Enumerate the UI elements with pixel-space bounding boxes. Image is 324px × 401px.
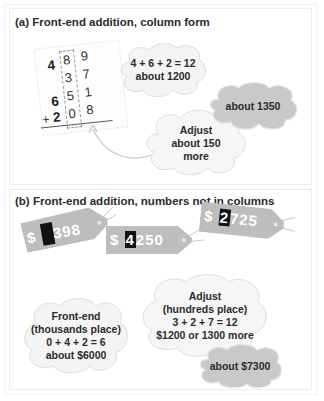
- digit: 9: [80, 48, 89, 64]
- currency-symbol: $: [203, 207, 214, 225]
- digit: 1: [84, 84, 93, 100]
- digit: 3: [64, 70, 73, 86]
- cloud-front-end-thousands: Front-end (thousands place) 0 + 4 + 2 = …: [20, 296, 132, 376]
- price-tag-2: $ 4250: [106, 226, 200, 254]
- price-digits: 250: [136, 231, 164, 248]
- cloud-text-line: about $7300: [210, 360, 271, 373]
- price-digits: 725: [229, 210, 259, 230]
- cloud-front-end-sum: 4 + 6 + 2 = 12 about 1200: [117, 42, 209, 98]
- panel-a-title: (a) Front-end addition, column form: [15, 16, 210, 28]
- digit: 8: [86, 102, 95, 118]
- digit: 2: [52, 109, 61, 125]
- cloud-result: about 1350: [207, 82, 299, 130]
- plus-sign: +: [41, 111, 50, 127]
- cloud-text-line: about $6000: [46, 349, 107, 362]
- digit: 4: [47, 58, 56, 74]
- digit: 7: [82, 66, 91, 82]
- highlighted-digit: 4: [125, 231, 136, 248]
- cloud-result-b: about $7300: [197, 344, 283, 388]
- digit: 6: [50, 93, 59, 109]
- digit: 8: [62, 52, 71, 68]
- cloud-text-line: about 1350: [226, 100, 281, 113]
- cloud-text-line: 3 + 2 + 7 = 12: [172, 316, 237, 329]
- cloud-text-line: (hundreds place): [163, 303, 248, 316]
- cloud-text-line: 0 + 4 + 2 = 6: [46, 336, 105, 349]
- digit: 5: [66, 88, 75, 104]
- cloud-text-line: about 1200: [136, 70, 191, 83]
- currency-symbol: $: [110, 231, 119, 248]
- column-addition-card: 4 8 9 3 7 6 5 1 + 2 0 8: [34, 40, 129, 137]
- cloud-text-line: 4 + 6 + 2 = 12: [130, 57, 195, 70]
- cloud-text-line: Front-end: [52, 310, 101, 323]
- digit: 0: [68, 106, 77, 122]
- price-digits: 398: [52, 220, 83, 242]
- cloud-text-line: about 150: [171, 137, 220, 150]
- cloud-text-line: more: [183, 150, 209, 163]
- cloud-text-line: Adjust: [189, 290, 222, 303]
- currency-symbol: $: [26, 228, 38, 246]
- cloud-text-line: (thousands place): [31, 323, 121, 336]
- cloud-text-line: $1200 or 1300 more: [156, 329, 253, 342]
